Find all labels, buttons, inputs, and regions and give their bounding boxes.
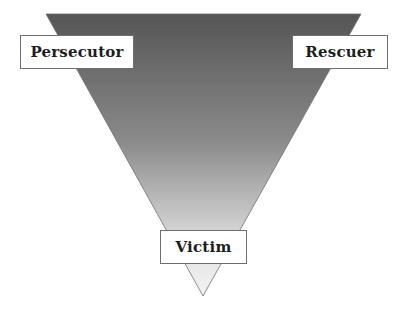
persecutor-label: Persecutor [30,43,123,61]
victim-label: Victim [176,238,232,256]
rescuer-label: Rescuer [305,43,374,61]
persecutor-label-box: Persecutor [20,35,134,69]
drama-triangle-diagram: Persecutor Rescuer Victim [0,0,406,314]
victim-label-box: Victim [160,230,247,264]
rescuer-label-box: Rescuer [292,35,388,69]
